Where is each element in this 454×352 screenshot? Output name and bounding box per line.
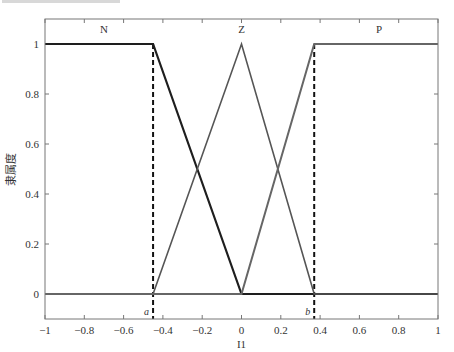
boundary-markers <box>153 44 314 319</box>
series-P <box>45 44 438 294</box>
y-tick-label: 0.8 <box>25 88 39 100</box>
mf-label-P: P <box>376 23 382 35</box>
x-tick-label: −0.8 <box>74 324 94 336</box>
x-tick-label: −1 <box>39 324 51 336</box>
mf-label-N: N <box>100 23 108 35</box>
axis-ticks <box>45 19 438 319</box>
y-tick-label: 0.6 <box>25 138 39 150</box>
marker-label-a: a <box>144 306 149 317</box>
y-tick-label: 0.4 <box>25 188 39 200</box>
x-tick-label: 0 <box>239 324 245 336</box>
membership-curves <box>45 44 438 294</box>
x-tick-label: −0.2 <box>192 324 212 336</box>
series-Z <box>45 44 438 294</box>
x-axis-label: I1 <box>237 338 246 350</box>
x-tick-label: 0.4 <box>313 324 327 336</box>
series-N <box>45 44 438 294</box>
x-tick-label: 0.6 <box>353 324 367 336</box>
plot-frame <box>45 19 438 319</box>
y-tick-label: 0.2 <box>25 238 39 250</box>
x-tick-label: 0.8 <box>392 324 406 336</box>
x-tick-label: −0.6 <box>114 324 134 336</box>
x-tick-label: 1 <box>435 324 441 336</box>
y-tick-label: 1 <box>34 38 40 50</box>
membership-function-chart: −1−0.8−0.6−0.4−0.200.20.40.60.8100.20.40… <box>0 0 454 352</box>
mf-label-Z: Z <box>238 23 245 35</box>
y-axis-label: 隶属度 <box>4 153 17 186</box>
x-tick-label: 0.2 <box>274 324 288 336</box>
x-tick-label: −0.4 <box>153 324 173 336</box>
marker-label-b: b <box>305 306 310 317</box>
y-tick-label: 0 <box>34 288 40 300</box>
labels: −1−0.8−0.6−0.4−0.200.20.40.60.8100.20.40… <box>4 23 441 350</box>
